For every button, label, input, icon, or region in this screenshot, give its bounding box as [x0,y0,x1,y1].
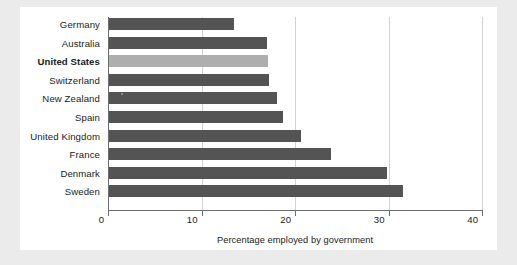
bar-row: Switzerland [108,74,482,93]
bar [109,92,277,104]
bar [109,167,387,179]
plot-area: GermanyAustraliaUnited StatesSwitzerland… [108,17,482,210]
bar [109,74,269,86]
bar [109,111,283,123]
category-label: Switzerland [49,74,100,87]
bar [109,18,234,30]
bar-row: United States [108,55,482,74]
bar-row: Australia [108,37,482,56]
x-tick-10 [202,211,203,216]
bar-row: Germany [108,18,482,37]
bar-row: France [108,148,482,167]
bar [109,37,267,49]
bar [109,185,403,197]
category-label: Australia [62,37,100,50]
category-label: Spain [75,111,100,124]
category-label: Sweden [65,185,100,198]
x-tick-label: 10 [187,214,202,226]
gridline-40 [482,17,483,210]
category-label: United Kingdom [30,130,100,143]
category-label: New Zealand [42,92,100,105]
x-tick-40 [482,211,483,216]
bar-row: New Zealand [108,92,482,111]
bar-row: Sweden [108,185,482,204]
bar-row: United Kingdom [108,130,482,149]
category-label: United States [37,55,100,68]
x-tick-0 [108,211,109,216]
bar [109,148,331,160]
chart-page: GermanyAustraliaUnited StatesSwitzerland… [0,0,517,265]
category-label: Denmark [60,167,100,180]
bar-row: Denmark [108,167,482,186]
bar [109,130,301,142]
x-axis-title: Percentage employed by government [108,235,482,245]
x-tick-20 [295,211,296,216]
bar-row: Spain [108,111,482,130]
x-tick-label: 40 [467,214,482,226]
category-label: France [70,148,100,161]
bar [109,55,268,67]
speck-mark [121,93,123,95]
x-tick-label: 30 [374,214,389,226]
x-tick-label: 0 [99,214,108,226]
category-label: Germany [60,18,100,31]
chart-panel: GermanyAustraliaUnited StatesSwitzerland… [20,7,497,250]
x-tick-30 [389,211,390,216]
x-tick-label: 20 [280,214,295,226]
